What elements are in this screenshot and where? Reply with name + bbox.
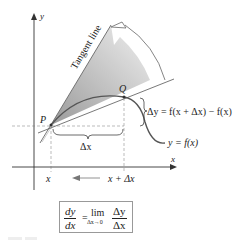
x-axis-label: x — [170, 154, 175, 164]
x-axis-arrow-icon — [170, 164, 177, 170]
x-plus-dx-tick-label: x + Δx — [107, 173, 135, 184]
delta-x-denominator: Δx — [112, 219, 127, 231]
dy-dx-fraction: dy dx — [64, 206, 76, 231]
delta-x-label: Δx — [80, 141, 91, 152]
delta-x-brace — [53, 129, 123, 139]
rotation-arrow-head-icon — [111, 22, 126, 28]
delta-y-equation: Δy = f(x + Δx) − f(x) — [147, 106, 232, 118]
dx-denominator: dx — [64, 219, 76, 231]
curve-label: y = f(x) — [167, 137, 199, 149]
x-tick-label: x — [45, 173, 51, 184]
y-axis-label: y — [39, 11, 44, 21]
figure-caption-faint — [8, 236, 48, 242]
y-axis-arrow-icon — [31, 13, 37, 20]
point-p-label: P — [39, 114, 46, 125]
delta-fraction: Δy Δx — [112, 206, 127, 231]
point-q-label: Q — [119, 83, 127, 94]
approach-arrow-head-icon — [72, 175, 80, 181]
lim-operator: lim — [91, 207, 104, 218]
derivative-formula-box: dy dx = lim Δx→0 Δy Δx — [59, 201, 133, 233]
delta-y-numerator: Δy — [112, 206, 127, 219]
dy-numerator: dy — [64, 206, 76, 219]
lim-subscript: Δx→0 — [87, 219, 103, 225]
